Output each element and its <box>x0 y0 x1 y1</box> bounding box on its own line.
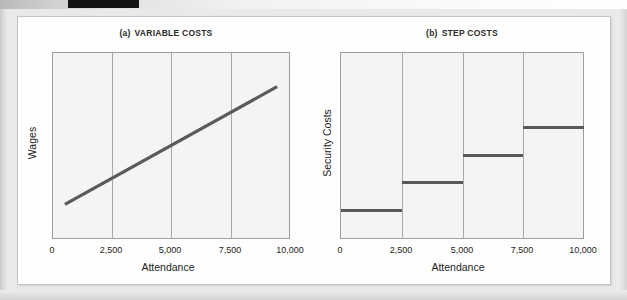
variable-cost-line <box>53 53 289 238</box>
panel-b-title: (b)STEP COSTS <box>314 28 610 38</box>
xtick-a-5000: 5,000 <box>159 245 182 255</box>
x-axis-ticks-panel-a: 0 2,500 5,000 7,500 10,000 <box>52 245 290 257</box>
step-segment-4 <box>523 126 584 129</box>
step-segment-2 <box>402 181 463 184</box>
x-axis-label-panel-a: Attendance <box>20 261 316 273</box>
step-segment-1 <box>341 209 402 212</box>
xtick-b-0: 0 <box>337 245 342 255</box>
panel-a-title-text: VARIABLE COSTS <box>135 28 213 38</box>
xtick-b-2500: 2,500 <box>390 245 413 255</box>
xtick-a-0: 0 <box>49 245 54 255</box>
y-axis-label-panel-b: Security Costs <box>321 98 333 188</box>
panel-a-tag: (a) <box>119 28 130 38</box>
xtick-a-2500: 2,500 <box>100 245 123 255</box>
xtick-a-10000: 10,000 <box>276 245 304 255</box>
scan-edge-bottom <box>0 290 627 300</box>
chart-panel-step-costs: (b)STEP COSTS 0 2,500 5,000 7,500 10,000… <box>314 17 610 284</box>
step-segment-3 <box>463 154 523 157</box>
scan-black-marker-bar <box>68 0 139 8</box>
gridline-b-5000 <box>463 53 464 238</box>
x-axis-ticks-panel-b: 0 2,500 5,000 7,500 10,000 <box>340 245 584 257</box>
figure-card: (a)VARIABLE COSTS 0 2,500 5,000 7,500 10… <box>17 16 611 285</box>
scan-edge-left <box>0 9 9 300</box>
gridline-b-2500 <box>402 53 403 238</box>
x-axis-label-panel-b: Attendance <box>310 261 606 273</box>
gridline-b-7500 <box>523 53 524 238</box>
panel-b-tag: (b) <box>426 28 438 38</box>
xtick-a-7500: 7,500 <box>219 245 242 255</box>
plot-area-variable-costs <box>52 52 290 239</box>
xtick-b-5000: 5,000 <box>451 245 474 255</box>
y-axis-label-panel-a: Wages <box>26 113 38 173</box>
xtick-b-10000: 10,000 <box>569 245 597 255</box>
panel-b-title-text: STEP COSTS <box>442 28 498 38</box>
plot-area-step-costs <box>340 52 584 239</box>
xtick-b-7500: 7,500 <box>511 245 534 255</box>
scanned-page-background: (a)VARIABLE COSTS 0 2,500 5,000 7,500 10… <box>0 0 627 300</box>
chart-panel-variable-costs: (a)VARIABLE COSTS 0 2,500 5,000 7,500 10… <box>18 17 314 284</box>
panel-a-title: (a)VARIABLE COSTS <box>18 28 314 38</box>
scan-edge-right <box>617 9 627 300</box>
